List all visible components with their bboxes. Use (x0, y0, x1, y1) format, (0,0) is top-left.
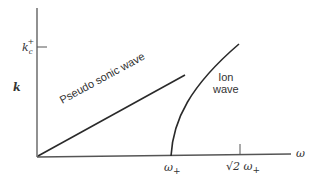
x-tick-label-sqrt2-omega-plus: √2 ω+ (226, 161, 260, 175)
y-tick-label-kc-plus: kc+ (22, 40, 39, 56)
x-axis-label: ω (296, 148, 305, 159)
pseudo-sonic-wave-curve (38, 75, 185, 156)
ion-wave-curve (171, 44, 239, 156)
x-tick-label-omega-plus: ω+ (164, 162, 181, 176)
dispersion-diagram (0, 0, 322, 178)
y-axis-label: k (13, 82, 21, 93)
ion-wave-label: Ion wave (213, 71, 239, 95)
x-axis (37, 154, 291, 157)
